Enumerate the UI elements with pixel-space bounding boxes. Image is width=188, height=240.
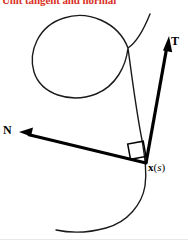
normal-label: N <box>3 124 12 136</box>
tangent-vector-shaft <box>146 49 167 163</box>
normal-arrowhead <box>19 128 33 137</box>
tangent-label: T <box>171 35 179 47</box>
point-label: x(s) <box>148 162 165 173</box>
curve-path <box>32 14 150 232</box>
diagram-canvas <box>0 0 188 240</box>
tangent-vector-T <box>146 36 172 163</box>
figure-container: Unit tangent and normal T N x(s) <box>0 0 188 240</box>
normal-vector-N <box>19 128 146 164</box>
point-close-paren: ) <box>161 161 165 173</box>
